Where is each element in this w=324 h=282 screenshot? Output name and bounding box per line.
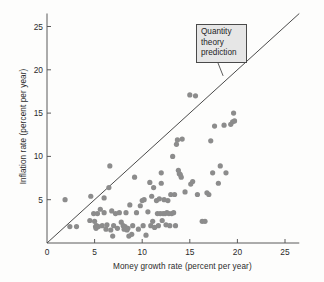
callout-leader-line [218,63,223,76]
x-tick-label: 5 [85,247,105,257]
quantity-theory-line [47,14,299,243]
y-tick-label: 25 [23,22,43,32]
x-tick-label: 15 [180,247,200,257]
x-tick-label: 20 [227,247,247,257]
x-axis-title: Money growth rate (percent per year) [113,262,252,271]
scatter-chart-figure: Quantity theory prediction Money growth … [0,0,324,282]
y-tick-label: 10 [23,151,43,161]
y-tick-label: 5 [23,195,43,205]
scatter-points [62,92,237,238]
x-tick-label: 25 [275,247,295,257]
callout-line-3: prediction [201,48,243,59]
quantity-theory-callout: Quantity theory prediction [196,24,247,63]
callout-line-2: theory [201,38,243,49]
x-tick-label: 10 [132,247,152,257]
callout-line-1: Quantity [201,27,243,38]
y-tick-label: 20 [23,65,43,75]
y-tick-label: 15 [23,108,43,118]
plot-area [0,0,324,282]
x-tick-label: 0 [37,247,57,257]
